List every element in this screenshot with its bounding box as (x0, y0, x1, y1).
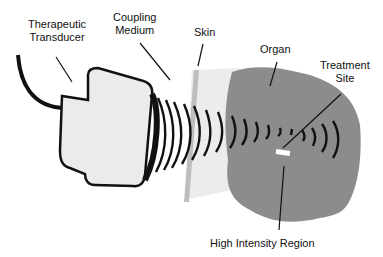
label-coupling-medium: Coupling Medium (113, 11, 156, 37)
transducer-body (60, 68, 152, 186)
label-organ: Organ (260, 43, 291, 56)
label-therapeutic-transducer: Therapeutic Transducer (28, 18, 86, 44)
organ-shape (226, 67, 361, 222)
label-skin: Skin (194, 26, 215, 39)
label-high-intensity-region: High Intensity Region (210, 237, 315, 250)
hifu-diagram: Therapeutic Transducer Coupling Medium S… (0, 0, 383, 257)
label-treatment-site: Treatment Site (320, 59, 370, 85)
